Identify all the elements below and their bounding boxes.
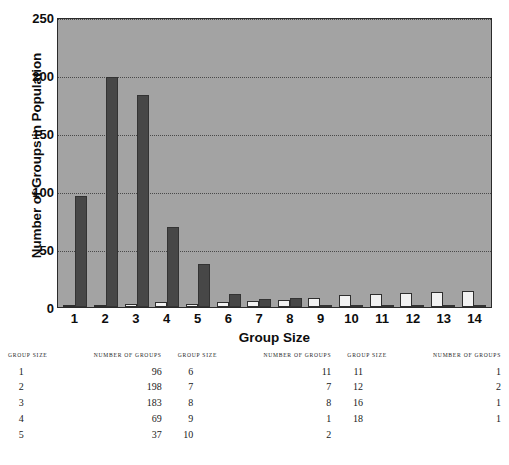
x-tick-label: 9 bbox=[305, 311, 336, 326]
cell-group-size: 7 bbox=[176, 380, 235, 396]
cell-group-size: 5 bbox=[6, 427, 65, 443]
chart-figure: Number of Groups in Population 250200150… bbox=[0, 0, 509, 348]
cell-number-of-groups: 7 bbox=[234, 380, 333, 396]
x-tick-label: 10 bbox=[336, 311, 367, 326]
table-row: 161 bbox=[345, 396, 503, 412]
column-header: NUMBER OF GROUPS bbox=[65, 352, 164, 364]
bar-dark-series-9 bbox=[320, 305, 332, 307]
bar-light-series-12 bbox=[400, 293, 412, 307]
x-tick-label: 3 bbox=[121, 311, 152, 326]
cell-number-of-groups: 1 bbox=[404, 396, 503, 412]
cell-group-size: 1 bbox=[6, 364, 65, 380]
bar-dark-series-14 bbox=[474, 305, 486, 307]
bar-dark-series-8 bbox=[290, 298, 302, 307]
bar-light-series-14 bbox=[462, 291, 474, 307]
table-header-row: GROUP SIZENUMBER OF GROUPS bbox=[176, 352, 334, 364]
cell-number-of-groups: 1 bbox=[234, 411, 333, 427]
x-tick-label: 5 bbox=[182, 311, 213, 326]
x-tick-label: 8 bbox=[274, 311, 305, 326]
table-header-row: GROUP SIZENUMBER OF GROUPS bbox=[345, 352, 503, 364]
data-tables: GROUP SIZENUMBER OF GROUPS19621983183469… bbox=[0, 352, 509, 447]
x-tick-label: 12 bbox=[398, 311, 429, 326]
table-row: 611 bbox=[176, 364, 334, 380]
bar-group bbox=[366, 19, 397, 307]
bar-group bbox=[152, 19, 183, 307]
cell-number-of-groups: 8 bbox=[234, 396, 333, 412]
bar-dark-series-3 bbox=[137, 95, 149, 307]
y-tick-label: 250 bbox=[32, 11, 54, 26]
bar-dark-series-11 bbox=[382, 305, 394, 307]
table-row: 469 bbox=[6, 411, 164, 427]
y-tick-label: 50 bbox=[40, 243, 54, 258]
column-header: GROUP SIZE bbox=[6, 352, 65, 364]
bar-light-series-13 bbox=[431, 292, 443, 307]
bar-dark-series-4 bbox=[167, 227, 179, 307]
bar-group bbox=[274, 19, 305, 307]
cell-group-size: 9 bbox=[176, 411, 235, 427]
bar-light-series-9 bbox=[308, 298, 320, 307]
bar-groups bbox=[58, 19, 491, 307]
cell-number-of-groups: 69 bbox=[65, 411, 164, 427]
table-row: 77 bbox=[176, 380, 334, 396]
bar-light-series-6 bbox=[217, 302, 229, 307]
bar-dark-series-12 bbox=[412, 305, 424, 307]
cell-number-of-groups: 2 bbox=[234, 427, 333, 443]
bar-dark-series-6 bbox=[229, 294, 241, 307]
column-header: GROUP SIZE bbox=[176, 352, 235, 364]
bar-dark-series-13 bbox=[443, 305, 455, 307]
bar-dark-series-1 bbox=[75, 196, 87, 307]
table-row: 102 bbox=[176, 427, 334, 443]
table-row: 88 bbox=[176, 396, 334, 412]
y-tick-label: 150 bbox=[32, 127, 54, 142]
table-row: 196 bbox=[6, 364, 164, 380]
table-middle: GROUP SIZENUMBER OF GROUPS611778891102 bbox=[170, 352, 340, 447]
cell-group-size: 18 bbox=[345, 411, 404, 427]
bar-group bbox=[244, 19, 275, 307]
cell-number-of-groups: 2 bbox=[404, 380, 503, 396]
cell-group-size: 6 bbox=[176, 364, 235, 380]
column-header: NUMBER OF GROUPS bbox=[234, 352, 333, 364]
column-header: GROUP SIZE bbox=[345, 352, 404, 364]
bar-light-series-2 bbox=[94, 305, 106, 307]
table-row: 537 bbox=[6, 427, 164, 443]
cell-group-size: 12 bbox=[345, 380, 404, 396]
table-row: 2198 bbox=[6, 380, 164, 396]
table-row: 91 bbox=[176, 411, 334, 427]
table-row: 3183 bbox=[6, 396, 164, 412]
bar-dark-series-7 bbox=[259, 299, 271, 307]
cell-group-size: 10 bbox=[176, 427, 235, 443]
bar-group bbox=[397, 19, 428, 307]
y-tick-label: 200 bbox=[32, 69, 54, 84]
bar-light-series-3 bbox=[125, 304, 137, 307]
x-tick-label: 13 bbox=[428, 311, 459, 326]
table-header-row: GROUP SIZENUMBER OF GROUPS bbox=[6, 352, 164, 364]
bar-dark-series-2 bbox=[106, 77, 118, 307]
bar-light-series-11 bbox=[370, 294, 382, 307]
cell-number-of-groups: 96 bbox=[65, 364, 164, 380]
bar-group bbox=[121, 19, 152, 307]
table-right: GROUP SIZENUMBER OF GROUPS111122161181 bbox=[339, 352, 509, 447]
cell-number-of-groups: 37 bbox=[65, 427, 164, 443]
bar-light-series-1 bbox=[63, 305, 75, 307]
bar-group bbox=[428, 19, 459, 307]
bar-group bbox=[458, 19, 489, 307]
bar-group bbox=[183, 19, 214, 307]
x-axis-title: Group Size bbox=[57, 330, 492, 345]
cell-group-size: 3 bbox=[6, 396, 65, 412]
cell-group-size: 16 bbox=[345, 396, 404, 412]
bar-group bbox=[60, 19, 91, 307]
cell-group-size: 11 bbox=[345, 364, 404, 380]
bar-light-series-7 bbox=[247, 301, 259, 307]
cell-group-size: 2 bbox=[6, 380, 65, 396]
column-header: NUMBER OF GROUPS bbox=[404, 352, 503, 364]
cell-number-of-groups: 1 bbox=[404, 411, 503, 427]
bar-light-series-8 bbox=[278, 300, 290, 307]
table-row: 181 bbox=[345, 411, 503, 427]
cell-group-size: 4 bbox=[6, 411, 65, 427]
cell-number-of-groups: 198 bbox=[65, 380, 164, 396]
bar-light-series-10 bbox=[339, 295, 351, 307]
x-tick-label: 14 bbox=[459, 311, 490, 326]
x-tick-label: 4 bbox=[151, 311, 182, 326]
x-tick-label: 7 bbox=[244, 311, 275, 326]
table-row: 122 bbox=[345, 380, 503, 396]
